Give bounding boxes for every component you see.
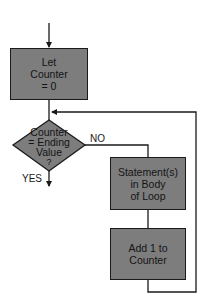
init-line-3: = 0 <box>42 80 57 92</box>
body-line-2: in Body <box>130 178 165 190</box>
decision-line-3: Value <box>36 147 62 157</box>
no-label: NO <box>90 133 105 144</box>
body-line-3: of Loop <box>130 190 165 202</box>
init-line-2: Counter <box>30 68 67 80</box>
increment-line-1: Add 1 to <box>128 242 167 254</box>
decision-line-4: ? <box>46 157 51 167</box>
no-branch-line <box>85 145 148 157</box>
loop-body-box: Statement(s) in Body of Loop <box>110 157 186 210</box>
body-line-1: Statement(s) <box>118 166 178 178</box>
flowchart-canvas: Let Counter = 0 Counter = Ending Value ?… <box>0 0 208 308</box>
init-line-1: Let <box>42 56 57 68</box>
yes-label: YES <box>22 173 42 184</box>
decision-label: Counter = Ending Value ? <box>19 127 79 167</box>
increment-counter-box: Add 1 to Counter <box>110 228 186 280</box>
increment-line-2: Counter <box>129 254 166 266</box>
init-counter-box: Let Counter = 0 <box>10 48 88 100</box>
